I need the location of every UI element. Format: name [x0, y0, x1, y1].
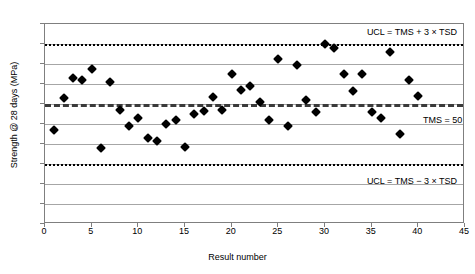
- gridline: [45, 204, 463, 205]
- data-point: [273, 54, 283, 64]
- data-point: [124, 121, 134, 131]
- y-axis-title: Strength @ 28 days (MPa): [9, 35, 19, 195]
- annotation-ucl-lower: UCL = TMS − 3 × TSD: [367, 176, 457, 186]
- y-tick-mark: [40, 23, 44, 24]
- x-tick-label: 15: [164, 227, 204, 236]
- reference-line-ucl-upper: [45, 44, 463, 46]
- data-point: [133, 113, 143, 123]
- x-axis-title: Result number: [0, 252, 475, 262]
- x-tick-mark: [464, 223, 465, 227]
- x-tick-mark: [184, 223, 185, 227]
- x-tick-label: 5: [71, 227, 111, 236]
- x-tick-mark: [417, 223, 418, 227]
- y-tick-mark: [40, 163, 44, 164]
- x-tick-label: 10: [117, 227, 157, 236]
- x-tick-label: 45: [444, 227, 475, 236]
- control-chart: Strength @ 28 days (MPa) Result number U…: [0, 0, 475, 274]
- reference-line-ucl-lower: [45, 164, 463, 166]
- y-tick-mark: [40, 63, 44, 64]
- data-point: [59, 93, 69, 103]
- data-point: [208, 92, 218, 102]
- reference-line-tms: [45, 104, 463, 107]
- plot-area: UCL = TMS + 3 × TSD UCL = TMS − 3 × TSD …: [44, 23, 464, 223]
- data-point: [161, 119, 171, 129]
- x-tick-mark: [91, 223, 92, 227]
- gridline: [45, 64, 463, 65]
- gridline: [45, 144, 463, 145]
- x-tick-label: 35: [351, 227, 391, 236]
- data-point: [87, 64, 97, 74]
- x-tick-label: 30: [304, 227, 344, 236]
- data-point: [395, 129, 405, 139]
- x-tick-mark: [137, 223, 138, 227]
- data-point: [283, 121, 293, 131]
- annotation-ucl-upper: UCL = TMS + 3 × TSD: [367, 27, 457, 37]
- data-point: [199, 106, 209, 116]
- data-point: [367, 107, 377, 117]
- x-tick-label: 0: [24, 227, 64, 236]
- data-point: [311, 107, 321, 117]
- data-point: [385, 47, 395, 57]
- data-point: [413, 91, 423, 101]
- data-point: [143, 133, 153, 143]
- gridline: [45, 124, 463, 125]
- x-tick-mark: [231, 223, 232, 227]
- x-tick-label: 40: [397, 227, 437, 236]
- y-tick-mark: [40, 83, 44, 84]
- data-point: [292, 60, 302, 70]
- y-tick-mark: [40, 203, 44, 204]
- y-tick-mark: [40, 103, 44, 104]
- x-tick-mark: [277, 223, 278, 227]
- y-tick-mark: [40, 123, 44, 124]
- x-tick-label: 20: [211, 227, 251, 236]
- data-point: [236, 85, 246, 95]
- x-tick-label: 25: [257, 227, 297, 236]
- data-point: [245, 81, 255, 91]
- data-point: [227, 69, 237, 79]
- annotation-tms: TMS = 50: [423, 115, 462, 125]
- x-tick-mark: [324, 223, 325, 227]
- y-tick-mark: [40, 183, 44, 184]
- x-tick-mark: [371, 223, 372, 227]
- data-point: [189, 109, 199, 119]
- data-point: [348, 86, 358, 96]
- data-point: [339, 69, 349, 79]
- data-point: [376, 113, 386, 123]
- x-tick-mark: [44, 223, 45, 227]
- y-tick-mark: [40, 143, 44, 144]
- data-point: [357, 69, 367, 79]
- data-point: [105, 77, 115, 87]
- y-tick-mark: [40, 43, 44, 44]
- data-point: [49, 125, 59, 135]
- data-point: [68, 73, 78, 83]
